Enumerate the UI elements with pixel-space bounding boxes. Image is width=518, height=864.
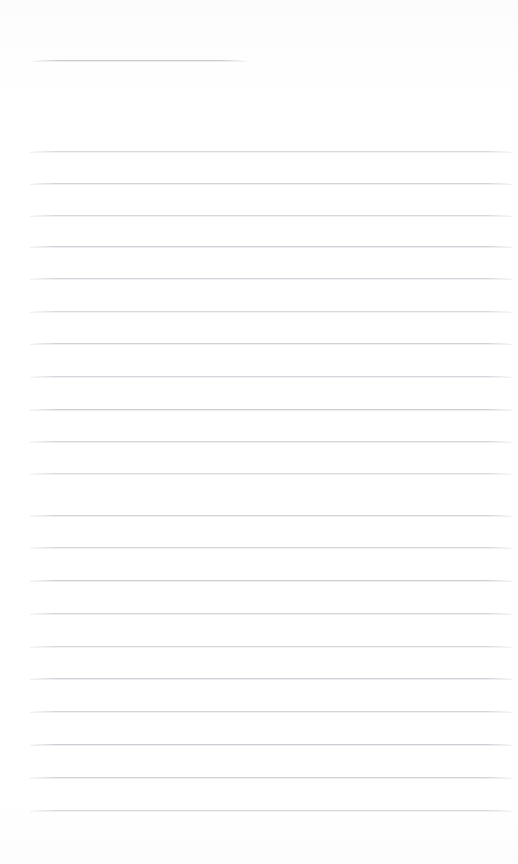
ruled-line-label [30,678,31,679]
ruled-line [30,777,512,778]
ruled-line-label [30,515,31,516]
rule-fade-right [486,645,512,648]
rule-fade-left [30,645,56,648]
ruled-line [30,580,512,581]
rule-fade-left [30,342,56,345]
ruled-line [30,183,512,184]
ruled-line-label [30,278,31,279]
ruled-line-label [30,343,31,344]
rule-fade-right [486,546,512,549]
title-rule [33,60,246,61]
rule-fade-right [486,743,512,746]
ruled-line-label [30,311,31,312]
rule-fade-right [486,277,512,280]
rule-fade-right [486,440,512,443]
rule-fade-left [30,677,56,680]
ruled-line [30,744,512,745]
rule-fade-left [30,546,56,549]
rule-fade-right [486,710,512,713]
rule-fade-right [486,677,512,680]
ruled-line-label [30,744,31,745]
rule-fade-right [486,776,512,779]
rule-fade-left [30,776,56,779]
ruled-line-label [30,376,31,377]
ruled-line [30,246,512,247]
rule-fade-left [30,809,56,812]
rule-fade-right [486,514,512,517]
rule-fade-left [30,408,56,411]
rule-fade-right [486,472,512,475]
ruled-line [30,515,512,516]
ruled-line-label [30,246,31,247]
ruled-line-label [30,151,31,152]
rule-fade-left [30,743,56,746]
rule-fade-left [30,310,56,313]
rule-fade-right [486,245,512,248]
ruled-line-label [30,613,31,614]
rule-fade-right [486,612,512,615]
ruled-line [30,409,512,410]
rule-fade-left [30,150,56,153]
ruled-line [30,441,512,442]
rule-fade-left [30,514,56,517]
rule-fade-left [30,182,56,185]
scanned-page [0,0,518,864]
ruled-line-label [30,183,31,184]
ruled-line [30,376,512,377]
ruled-line-label [30,547,31,548]
rule-fade-right [220,59,246,62]
title-rule-label [33,60,34,61]
rule-fade-right [486,375,512,378]
ruled-line [30,311,512,312]
rule-fade-left [33,59,59,62]
page-body-text [0,0,1,1]
rule-fade-left [30,579,56,582]
ruled-line-label [30,215,31,216]
rule-fade-right [486,809,512,812]
ruled-line [30,711,512,712]
ruled-line-label [30,409,31,410]
ruled-line [30,343,512,344]
rule-fade-left [30,214,56,217]
ruled-line [30,215,512,216]
ruled-line [30,151,512,152]
ruled-line-label [30,580,31,581]
rule-fade-right [486,214,512,217]
ruled-line [30,613,512,614]
ruled-line [30,547,512,548]
rule-fade-left [30,710,56,713]
rule-fade-left [30,440,56,443]
ruled-line-label [30,441,31,442]
rule-fade-left [30,472,56,475]
rule-fade-right [486,408,512,411]
rule-fade-right [486,579,512,582]
ruled-line-label [30,777,31,778]
rule-fade-left [30,612,56,615]
ruled-line [30,678,512,679]
ruled-line-label [30,711,31,712]
ruled-line-label [30,646,31,647]
ruled-line-label [30,473,31,474]
rule-fade-right [486,310,512,313]
rule-fade-right [486,150,512,153]
rule-fade-left [30,375,56,378]
ruled-line [30,278,512,279]
ruled-line-label [30,810,31,811]
ruled-line [30,810,512,811]
ruled-line [30,473,512,474]
rule-fade-left [30,277,56,280]
rule-fade-right [486,342,512,345]
paper-texture-overlay [0,0,518,864]
rule-fade-left [30,245,56,248]
ruled-line [30,646,512,647]
rule-fade-right [486,182,512,185]
